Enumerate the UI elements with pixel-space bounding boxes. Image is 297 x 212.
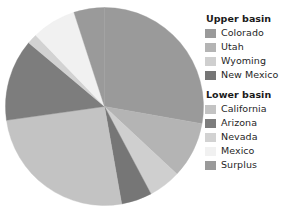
pie-chart-plot-area — [5, 7, 204, 206]
legend-label-utah: Utah — [221, 40, 244, 54]
pie-chart-svg — [5, 7, 204, 206]
legend-swatch-nevada — [205, 133, 216, 142]
legend-label-mexico: Mexico — [221, 144, 254, 158]
legend-item-utah[interactable]: Utah — [205, 40, 297, 54]
legend-swatch-arizona — [205, 119, 216, 128]
legend-item-california[interactable]: California — [205, 102, 297, 116]
legend-group-upper-basin: Upper basin Colorado Utah Wyoming New Me… — [205, 12, 297, 82]
legend-label-colorado: Colorado — [221, 26, 264, 40]
legend-swatch-surplus — [205, 161, 216, 170]
legend-swatch-wyoming — [205, 57, 216, 66]
legend-label-new-mexico: New Mexico — [221, 68, 278, 82]
legend-item-colorado[interactable]: Colorado — [205, 26, 297, 40]
legend-swatch-california — [205, 105, 216, 114]
legend-swatch-new-mexico — [205, 71, 216, 80]
legend-label-surplus: Surplus — [221, 158, 257, 172]
legend-label-california: California — [221, 102, 267, 116]
legend-group-title-upper-basin: Upper basin — [205, 12, 297, 25]
chart-legend: Upper basin Colorado Utah Wyoming New Me… — [205, 12, 297, 202]
legend-item-mexico[interactable]: Mexico — [205, 144, 297, 158]
legend-label-nevada: Nevada — [221, 130, 258, 144]
legend-label-arizona: Arizona — [221, 116, 257, 130]
legend-item-nevada[interactable]: Nevada — [205, 130, 297, 144]
legend-group-lower-basin: Lower basin California Arizona Nevada Me… — [205, 88, 297, 172]
pie-slice-california[interactable] — [6, 107, 121, 206]
pie-chart-figure: Upper basin Colorado Utah Wyoming New Me… — [0, 0, 297, 212]
legend-item-wyoming[interactable]: Wyoming — [205, 54, 297, 68]
legend-item-new-mexico[interactable]: New Mexico — [205, 68, 297, 82]
legend-swatch-utah — [205, 43, 216, 52]
legend-item-arizona[interactable]: Arizona — [205, 116, 297, 130]
legend-group-title-lower-basin: Lower basin — [205, 88, 297, 101]
legend-item-surplus[interactable]: Surplus — [205, 158, 297, 172]
legend-swatch-colorado — [205, 29, 216, 38]
pie-slice-group — [5, 8, 203, 206]
legend-label-wyoming: Wyoming — [221, 54, 266, 68]
legend-swatch-mexico — [205, 147, 216, 156]
pie-slice-colorado[interactable] — [105, 8, 204, 124]
